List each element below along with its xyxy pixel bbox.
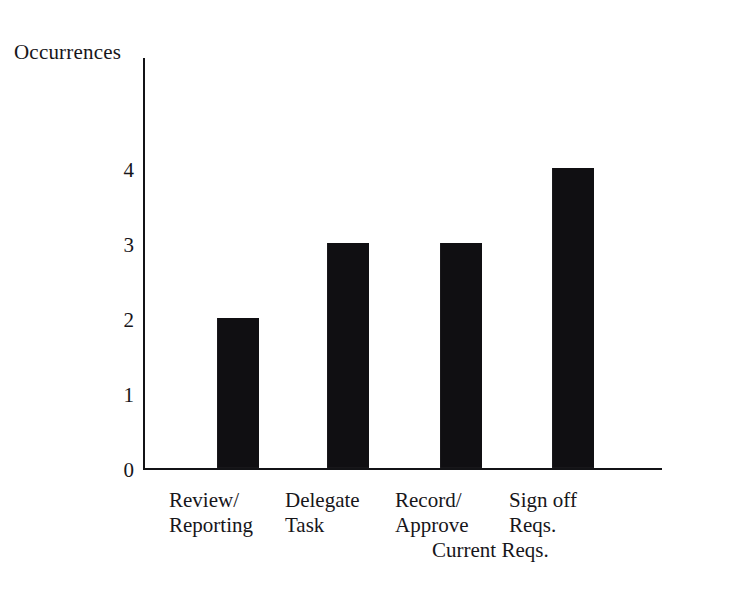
bar-group — [327, 243, 369, 468]
y-tick-label: 4 — [124, 160, 135, 181]
bar — [327, 243, 369, 468]
y-tick-label: 1 — [124, 385, 135, 406]
bar-chart-figure: Occurrences 0 1 2 3 4 Review/ — [0, 0, 741, 596]
x-tick-label-continuation: Current Reqs. — [432, 538, 549, 563]
y-axis-title: Occurrences — [14, 40, 121, 64]
bar — [440, 243, 482, 468]
bar — [552, 168, 594, 468]
y-tick-label: 3 — [124, 235, 135, 256]
y-tick-label: 2 — [124, 310, 135, 331]
bar — [217, 318, 259, 468]
x-tick-label: Record/ Approve — [395, 488, 468, 538]
bar-group — [440, 243, 482, 468]
bar-group — [552, 168, 594, 468]
bar-group — [217, 318, 259, 468]
bar-series — [143, 58, 662, 470]
plot-area: 0 1 2 3 4 — [143, 58, 662, 470]
x-tick-label: Delegate Task — [285, 488, 360, 538]
y-tick-label: 0 — [124, 460, 135, 481]
x-tick-label: Sign off Reqs. — [509, 488, 577, 538]
x-tick-label: Review/ Reporting — [169, 488, 253, 538]
x-axis-category-labels: Review/ Reporting Delegate Task Record/ … — [143, 488, 703, 588]
